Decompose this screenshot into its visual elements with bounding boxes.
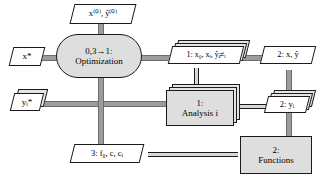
connector-analysis-to-yi xyxy=(240,104,266,109)
optimizer-name-label: Optimization xyxy=(75,56,123,66)
opt-output-data-node[interactable]: 1: x₀, xᵢ, ŷⱼ≠ᵢ xyxy=(168,46,244,64)
connector-objective-to-functions xyxy=(148,152,238,157)
functions-name-label: Functions xyxy=(258,155,294,165)
functions-step-label: 2: xyxy=(272,145,279,155)
xdsm-diagram: x⁽⁰⁾, ŷ⁽⁰⁾ x* 0,3→1: Optimization 1: x₀,… xyxy=(0,0,328,184)
analysis-output-data-label: 2: yᵢ xyxy=(280,100,294,110)
x-optimal-node[interactable]: x* xyxy=(9,47,46,66)
connector-analysis-to-ytargets xyxy=(44,101,168,107)
optimizer-node[interactable]: 0,3→1: Optimization xyxy=(56,34,142,78)
x-yhat-data-label: 2: x, ŷ xyxy=(277,50,299,60)
opt-output-data-label: 1: x₀, xᵢ, ŷⱼ≠ᵢ xyxy=(186,51,225,60)
initial-values-label: x⁽⁰⁾, ŷ⁽⁰⁾ xyxy=(89,9,118,19)
objective-data-label: 3: f₀, c, cᵢ xyxy=(91,149,123,159)
functions-node[interactable]: 2: Functions xyxy=(240,136,312,174)
objective-data-node[interactable]: 3: f₀, c, cᵢ xyxy=(70,144,145,163)
analysis-step-label: 1: xyxy=(196,98,203,108)
connector-yi-down-to-functions xyxy=(286,112,292,138)
analysis-name-label: Analysis i xyxy=(182,108,218,118)
initial-values-node[interactable]: x⁽⁰⁾, ŷ⁽⁰⁾ xyxy=(70,4,137,24)
connector-optimizer-down xyxy=(98,76,104,146)
x-yhat-data-node[interactable]: 2: x, ŷ xyxy=(260,46,316,64)
y-targets-label: yᵢ* xyxy=(22,97,32,107)
optimizer-step-label: 0,3→1: xyxy=(85,46,112,56)
x-optimal-label: x* xyxy=(23,51,32,61)
y-targets-node[interactable]: yᵢ* xyxy=(10,93,44,111)
connector-optimizer-to-data xyxy=(140,55,170,61)
analysis-node[interactable]: 1: Analysis i xyxy=(166,90,234,126)
analysis-output-data-node[interactable]: 2: yᵢ xyxy=(264,96,310,113)
